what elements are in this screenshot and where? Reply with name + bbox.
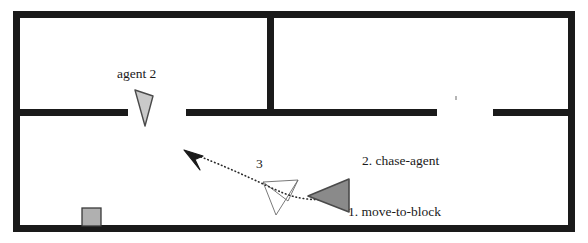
interior-wall-right [493,109,575,116]
waypoint-3-label: 3 [256,157,263,171]
sensor-cone [263,180,298,215]
interior-wall-mid [186,109,437,116]
trajectory-arrowhead-icon [184,150,203,170]
right-wall [568,11,575,232]
scan-speck-artifact [455,96,457,100]
floorplan-svg [0,0,588,243]
agent-2-triangle [135,90,153,126]
interior-wall-left [13,109,128,116]
step-1-move-to-block-label: 1. move-to-block [348,205,441,219]
walls-group [13,11,575,232]
agent-2-label: agent 2 [117,67,156,81]
agent-1-triangle [308,179,349,212]
interior-wall-vertical [267,11,274,113]
block-object [82,208,101,226]
top-wall [13,11,575,18]
step-2-chase-agent-label: 2. chase-agent [362,154,439,168]
floorplan-figure: agent 2 3 2. chase-agent 1. move-to-bloc… [0,0,588,243]
left-wall [13,11,20,232]
